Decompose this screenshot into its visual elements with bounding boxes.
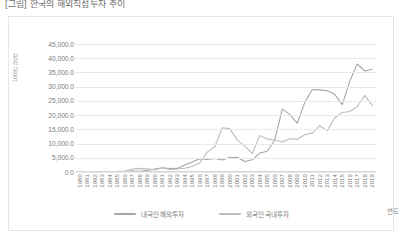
x-axis-tick-label: 2005 [264,174,271,188]
x-axis-tick-label: 2019 [369,174,376,188]
x-axis-tick-label: 1984 [107,174,114,188]
x-axis-tick-label: 1991 [159,174,166,188]
x-axis-tick-label: 2014 [332,174,339,188]
gridline [76,144,376,145]
x-axis-tick-label: 2010 [302,174,309,188]
x-axis-tick-label: 1981 [84,174,91,188]
x-axis-tick-label: 2015 [339,174,346,188]
gridline [76,101,376,102]
x-axis-tick-label: 2009 [294,174,301,188]
y-axis-tick-label: 25,000.0 [20,97,74,104]
chart-legend: 내국인 해외투자외국인 국내투자 [0,209,403,219]
y-axis-tick-label: 35,000.0 [20,69,74,76]
x-axis-tick-label: 2017 [354,174,361,188]
x-axis-tick-label: 2001 [234,174,241,188]
legend-label: 내국인 해외투자 [141,209,185,219]
x-axis-tick-label: 1980 [77,174,84,188]
y-axis-tick-label: 40,000.0 [20,55,74,62]
x-axis-tick-label: 1989 [144,174,151,188]
gridline [76,158,376,159]
x-axis-tick-label: 1990 [152,174,159,188]
x-axis-tick-label: 1985 [114,174,121,188]
legend-line-icon [114,213,136,215]
x-axis-tick-label: 2006 [272,174,279,188]
y-axis-tick-label: 5,000.0 [20,154,74,161]
x-axis-tick-label: 1994 [182,174,189,188]
x-axis-tick-label: 2012 [317,174,324,188]
series-lines [76,44,376,172]
x-axis-tick-label: 1997 [204,174,211,188]
x-axis-tick-labels: 1980198119821983198419851986198719881989… [76,174,376,204]
legend-item[interactable]: 내국인 해외투자 [114,209,185,219]
legend-label: 외국인 국내투자 [246,209,290,219]
y-axis-tick-labels: 45,000.040,000.035,000.030,000.025,000.0… [18,44,74,172]
x-axis-tick-label: 1995 [189,174,196,188]
y-axis-tick-label: 10,000.0 [20,140,74,147]
chart-screenshot: [그림] 한국의 해외직접투자 추이 100만 달러 45,000.040,00… [0,0,403,246]
gridline [76,72,376,73]
x-axis-tick-label: 2008 [287,174,294,188]
y-axis-tick-label: 45,000.0 [20,41,74,48]
x-axis-tick-label: 1983 [99,174,106,188]
x-axis-tick-label: 2003 [249,174,256,188]
x-axis-tick-label: 1988 [137,174,144,188]
x-axis-tick-label: 2018 [362,174,369,188]
x-axis-tick-label: 1996 [197,174,204,188]
gridline [76,115,376,116]
x-axis-tick-label: 2016 [347,174,354,188]
y-axis-tick-label: 30,000.0 [20,83,74,90]
y-axis-tick-label: 0.0 [20,169,74,176]
x-axis-tick-label: 2007 [279,174,286,188]
x-axis-tick-label: 1992 [167,174,174,188]
x-axis-tick-label: 1986 [122,174,129,188]
x-axis-tick-label: 2002 [242,174,249,188]
figure-caption: [그림] 한국의 해외직접투자 추이 [5,0,125,9]
x-axis-tick-label: 2011 [309,174,316,187]
plot-area [76,44,376,172]
y-axis-tick-label: 15,000.0 [20,126,74,133]
gridline [76,172,376,173]
x-axis-tick-label: 1998 [212,174,219,188]
x-axis-tick-label: 2013 [324,174,331,188]
gridline [76,129,376,130]
y-axis-tick-label: 20,000.0 [20,112,74,119]
gridline [76,44,376,45]
x-axis-tick-label: 2004 [257,174,264,188]
gridline [76,58,376,59]
x-axis-tick-label: 1982 [92,174,99,188]
legend-item[interactable]: 외국인 국내투자 [219,209,290,219]
x-axis-tick-label: 2000 [227,174,234,188]
legend-line-icon [219,213,241,215]
x-axis-tick-label: 1999 [219,174,226,188]
series-line [80,95,373,171]
series-line [80,64,373,172]
x-axis-tick-label: 1993 [174,174,181,188]
gridline [76,87,376,88]
x-axis-tick-label: 1987 [129,174,136,188]
